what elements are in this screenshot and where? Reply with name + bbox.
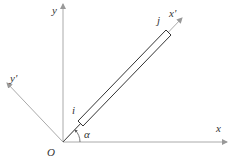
angle-arc — [75, 130, 80, 142]
y-prime-axis — [7, 83, 63, 142]
label-y-prime: y' — [9, 72, 18, 84]
label-alpha: α — [84, 128, 90, 140]
label-x-prime: x' — [168, 7, 177, 19]
label-y: y — [51, 4, 57, 16]
label-node-i: i — [72, 104, 75, 116]
label-x: x — [215, 122, 221, 134]
bar-element — [78, 30, 171, 126]
coordinate-diagram: y x x' y' j i α O — [0, 0, 233, 157]
label-node-j: j — [155, 14, 160, 26]
element-lead — [63, 123, 81, 142]
label-origin: O — [47, 146, 55, 157]
